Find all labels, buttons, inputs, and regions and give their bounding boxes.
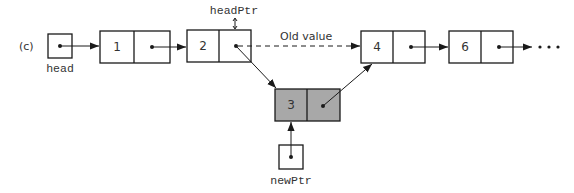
node-6-value: 6 xyxy=(461,40,469,54)
ellipsis-icon xyxy=(538,45,559,48)
headPtr-label: headPtr xyxy=(210,4,258,17)
node-4-value: 4 xyxy=(373,40,381,54)
newPtr-label: newPtr xyxy=(270,174,311,187)
node-2-value: 2 xyxy=(199,39,207,53)
headPtr-pointer: headPtr xyxy=(210,4,258,29)
head-label: head xyxy=(46,62,74,75)
old-value-label: Old value xyxy=(280,30,332,43)
linked-list-insertion-diagram: (c) head 1 headPtr 2 Old value 3 xyxy=(0,0,574,193)
part-label: (c) xyxy=(19,40,34,53)
node-3-new: 3 xyxy=(275,89,340,121)
node-3-value: 3 xyxy=(287,98,295,112)
head-pointer: head xyxy=(46,34,74,75)
arrow-node2-to-node3 xyxy=(236,46,276,88)
arrow-node3-to-node4 xyxy=(323,64,372,106)
node-1-value: 1 xyxy=(113,40,121,54)
